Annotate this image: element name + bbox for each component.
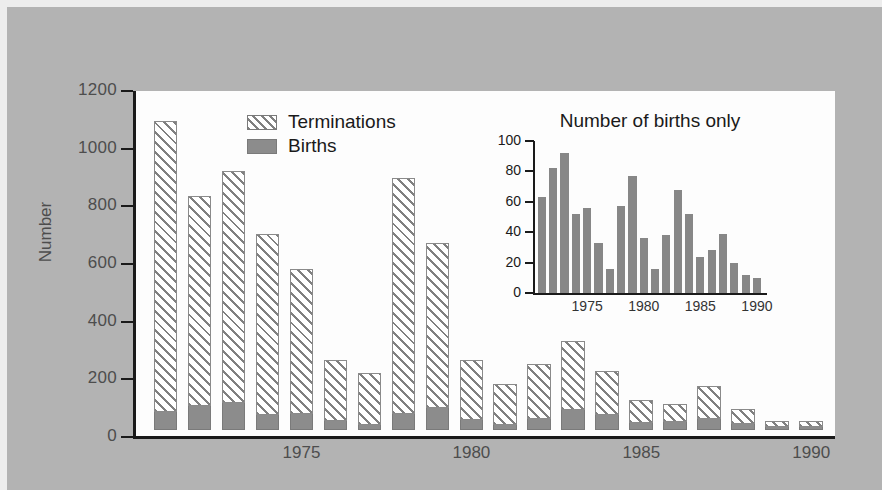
main-y-tick [121, 90, 133, 92]
bar-segment-births [561, 410, 585, 430]
bar-segment-terminations [222, 171, 246, 403]
inset-bar [538, 197, 546, 293]
bar-segment-terminations [460, 360, 484, 420]
bar-segment-births [663, 422, 687, 430]
inset-y-tick-label: 100 [477, 132, 521, 148]
bar-segment-births [324, 421, 348, 431]
main-y-axis-title: Number [36, 172, 56, 292]
main-stacked-bar [527, 364, 551, 430]
bar-segment-births [595, 415, 619, 430]
inset-bar [606, 269, 614, 293]
inset-y-tick [525, 292, 534, 294]
bar-segment-terminations [527, 364, 551, 419]
main-y-tick-label: 200 [41, 368, 117, 388]
inset-bar [742, 275, 750, 293]
main-stacked-bar [663, 404, 687, 430]
inset-x-tick-label: 1980 [628, 298, 659, 314]
main-y-tick [121, 263, 133, 265]
inset-bar [628, 176, 636, 293]
legend-item-terminations: Terminations [247, 110, 396, 134]
bar-segment-births [426, 408, 450, 430]
bar-segment-births [493, 425, 517, 430]
main-y-tick [121, 321, 133, 323]
bar-segment-terminations [629, 400, 653, 423]
main-y-tick [121, 148, 133, 150]
inset-plot-area [535, 141, 767, 293]
inset-bar [594, 243, 602, 293]
main-stacked-bar [731, 409, 755, 430]
inset-y-tick-label: 60 [477, 193, 521, 209]
inset-y-tick [525, 231, 534, 233]
bar-segment-births [358, 425, 382, 430]
bar-segment-terminations [663, 404, 687, 422]
bar-segment-births [222, 403, 246, 430]
inset-bar [730, 263, 738, 293]
inset-bar [662, 235, 670, 293]
inset-bar [685, 214, 693, 293]
inset-y-tick [525, 140, 534, 142]
main-stacked-bar [799, 421, 823, 430]
main-stacked-bar [426, 243, 450, 430]
bar-segment-terminations [324, 360, 348, 421]
main-y-tick-label: 0 [41, 426, 117, 446]
bar-segment-terminations [392, 178, 416, 414]
main-stacked-bar [188, 196, 212, 430]
legend-swatch-births-icon [247, 139, 277, 154]
inset-bar [572, 214, 580, 293]
inset-x-tick-label: 1985 [685, 298, 716, 314]
main-stacked-bar [222, 171, 246, 430]
main-stacked-bar [629, 400, 653, 430]
main-stacked-bar [460, 360, 484, 430]
inset-bar [560, 153, 568, 293]
bar-segment-births [460, 420, 484, 430]
inset-y-tick-label: 20 [477, 254, 521, 270]
bar-segment-births [256, 415, 280, 430]
inset-bar [617, 206, 625, 293]
main-y-tick-label: 400 [41, 311, 117, 331]
bar-segment-terminations [561, 341, 585, 410]
bar-segment-terminations [188, 196, 212, 407]
main-y-tick-label: 1200 [41, 80, 117, 100]
main-y-axis-line [133, 91, 136, 439]
inset-bar [753, 278, 761, 293]
main-x-tick-label: 1985 [622, 443, 660, 463]
main-stacked-bar [154, 121, 178, 430]
inset-y-tick [525, 201, 534, 203]
inset-bar [549, 168, 557, 293]
inset-x-tick-label: 1975 [572, 298, 603, 314]
inset-y-tick-label: 0 [477, 284, 521, 300]
main-stacked-bar [324, 360, 348, 430]
main-x-axis-line [133, 436, 835, 439]
main-x-tick-label: 1975 [283, 443, 321, 463]
bar-segment-terminations [290, 269, 314, 414]
inset-bar [674, 190, 682, 293]
main-x-tick-label: 1980 [452, 443, 490, 463]
main-y-tick [121, 205, 133, 207]
main-stacked-bar [392, 178, 416, 430]
inset-bar [696, 257, 704, 293]
inset-y-tick-label: 80 [477, 162, 521, 178]
inset-y-tick [525, 170, 534, 172]
inset-bar [651, 269, 659, 293]
inset-bar [583, 208, 591, 293]
inset-y-tick [525, 262, 534, 264]
inset-bar [640, 238, 648, 293]
legend-label-births: Births [288, 135, 337, 157]
main-y-tick [121, 436, 133, 438]
inset-bar [708, 250, 716, 293]
bar-segment-births [392, 414, 416, 430]
bar-segment-terminations [358, 373, 382, 425]
bar-segment-terminations [256, 234, 280, 415]
bar-segment-births [765, 427, 789, 430]
bar-segment-births [799, 427, 823, 430]
bar-segment-terminations [731, 409, 755, 424]
bar-segment-births [290, 414, 314, 430]
bar-segment-terminations [595, 371, 619, 415]
inset-bar [719, 234, 727, 293]
main-y-tick [121, 378, 133, 380]
main-x-tick-label: 1990 [792, 443, 830, 463]
main-stacked-bar [358, 373, 382, 430]
bar-segment-terminations [493, 384, 517, 426]
inset-x-axis-line [533, 293, 767, 295]
main-y-tick-label: 1000 [41, 138, 117, 158]
